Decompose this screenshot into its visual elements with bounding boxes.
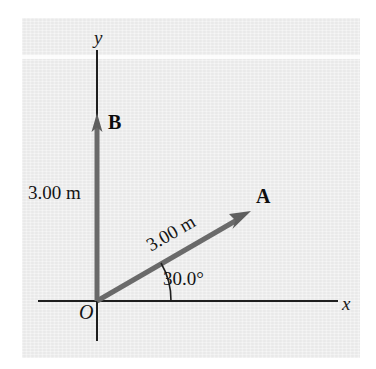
origin-label: O xyxy=(79,302,93,322)
vector-b-magnitude-label: 3.00 m xyxy=(28,183,81,202)
x-axis-label: x xyxy=(342,294,350,313)
vector-diagram-figure: y x O B A 3.00 m 3.00 m 30.0° xyxy=(0,0,376,369)
y-axis-label: y xyxy=(94,28,102,47)
angle-label: 30.0° xyxy=(163,269,204,288)
vector-a-label: A xyxy=(256,186,270,206)
vector-b-label: B xyxy=(108,112,121,132)
